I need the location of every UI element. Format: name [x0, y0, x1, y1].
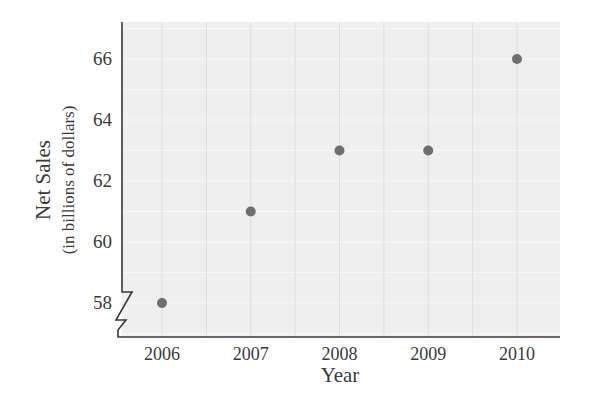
y-tick-label: 60: [93, 231, 112, 252]
y-tick-labels: 5860626466: [93, 48, 113, 313]
x-tick-label: 2007: [233, 344, 269, 364]
y-tick-label: 58: [93, 292, 112, 313]
data-point-2009: [423, 146, 433, 156]
y-axis-title: Net Sales: [31, 140, 55, 220]
chart-canvas: 5860626466 20062007200820092010 Year Net…: [0, 0, 596, 401]
data-point-2008: [335, 146, 345, 156]
data-point-2007: [246, 207, 256, 217]
x-tick-label: 2006: [144, 344, 180, 364]
y-tick-label: 62: [93, 170, 112, 191]
x-tick-labels: 20062007200820092010: [144, 344, 535, 364]
y-tick-label: 66: [93, 48, 112, 69]
x-axis-title: Year: [321, 363, 360, 387]
x-tick-label: 2008: [322, 344, 358, 364]
data-point-2006: [157, 298, 167, 308]
y-axis-subtitle: (in billions of dollars): [59, 106, 78, 255]
data-point-2010: [512, 54, 522, 64]
x-tick-label: 2010: [499, 344, 535, 364]
scatter-chart: 5860626466 20062007200820092010 Year Net…: [0, 0, 596, 401]
plot-area: [122, 22, 560, 337]
x-tick-label: 2009: [410, 344, 446, 364]
y-tick-label: 64: [93, 109, 113, 130]
